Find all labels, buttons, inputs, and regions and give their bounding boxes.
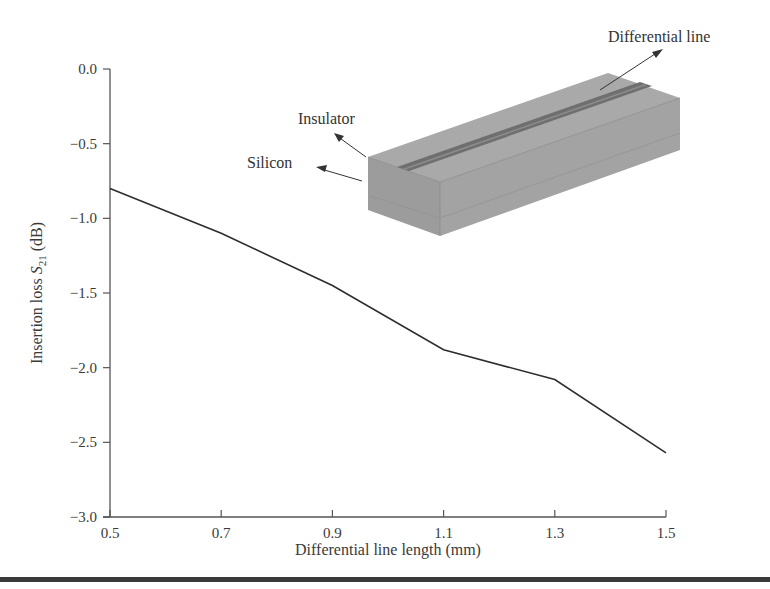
svg-text:Differential line: Differential line	[608, 28, 710, 45]
arrow-head-icon	[316, 165, 327, 172]
arrow-head-icon	[652, 49, 663, 58]
inset-block-diagram	[368, 73, 680, 236]
y-tick-label: −3.0	[70, 509, 97, 525]
x-tick-label: 0.7	[212, 525, 231, 541]
y-ticks: 0.0−0.5−1.0−1.5−2.0−2.5−3.0	[70, 61, 110, 525]
x-tick-label: 1.1	[434, 525, 453, 541]
y-tick-label: −1.0	[70, 210, 97, 226]
y-tick-label: −0.5	[70, 136, 97, 152]
arrow-head-icon	[334, 133, 344, 142]
y-tick-label: −1.5	[70, 285, 97, 301]
x-tick-label: 1.5	[657, 525, 676, 541]
chart: 0.0−0.5−1.0−1.5−2.0−2.5−3.0 0.50.70.91.1…	[0, 0, 770, 589]
annotation-silicon: Silicon	[247, 154, 362, 181]
y-axis: 0.0−0.5−1.0−1.5−2.0−2.5−3.0	[70, 61, 110, 525]
annotation-insulator: Insulator	[298, 110, 366, 157]
x-tick-label: 0.5	[101, 525, 120, 541]
y-tick-label: −2.0	[70, 360, 97, 376]
x-ticks: 0.50.70.91.11.31.5	[101, 510, 676, 541]
data-line	[110, 189, 666, 453]
x-axis-title: Differential line length (mm)	[295, 541, 481, 559]
svg-text:Silicon: Silicon	[247, 154, 292, 171]
y-tick-label: 0.0	[78, 61, 97, 77]
y-axis-title: Insertion loss S21 (dB)	[28, 222, 48, 364]
svg-text:Insulator: Insulator	[298, 110, 356, 127]
x-axis: 0.50.70.91.11.31.5	[101, 510, 676, 541]
x-tick-label: 1.3	[545, 525, 564, 541]
y-tick-label: −2.5	[70, 434, 97, 450]
bottom-rule	[0, 577, 770, 582]
x-tick-label: 0.9	[323, 525, 342, 541]
